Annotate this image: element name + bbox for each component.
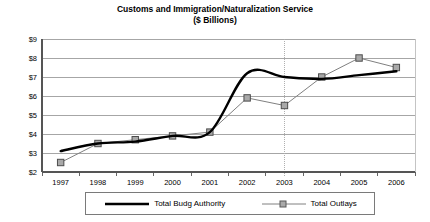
data-point-marker [244, 95, 250, 101]
x-axis-tick-labels: 1997199819992000200120022003200420052006 [52, 178, 404, 187]
x-tick-label: 2004 [313, 178, 330, 187]
x-tick-label: 2000 [164, 178, 181, 187]
y-tick-label: $8 [29, 54, 37, 63]
data-point-marker [57, 159, 63, 165]
data-series-layer [57, 55, 399, 166]
x-tick-label: 1999 [127, 178, 144, 187]
legend-line-swatch-budget-authority [103, 199, 151, 209]
y-tick-label: $3 [29, 149, 37, 158]
data-point-marker [393, 64, 399, 70]
chart-legend: Total Budg Authority Total Outlays [85, 192, 375, 215]
data-point-marker [281, 102, 287, 108]
y-axis-tick-labels: $2$3$4$5$6$7$8$9 [29, 35, 37, 177]
x-tick-label: 2002 [239, 178, 256, 187]
y-tick-label: $7 [29, 73, 37, 82]
x-tick-label: 2001 [202, 178, 219, 187]
y-tick-label: $9 [29, 35, 37, 44]
y-tick-label: $6 [29, 92, 37, 101]
y-tick-label: $5 [29, 111, 37, 120]
plot-area: $2$3$4$5$6$7$8$9 19971998199920002001200… [0, 0, 430, 222]
series-budget-authority [61, 70, 397, 151]
y-tick-label: $4 [29, 130, 37, 139]
legend-label-total-outlays: Total Outlays [311, 199, 357, 209]
legend-line-swatch-total-outlays [260, 199, 308, 209]
data-point-marker [356, 55, 362, 61]
series-total-outlays [57, 55, 399, 166]
legend-label-budget-authority: Total Budg Authority [154, 199, 225, 209]
x-tick-label: 2003 [276, 178, 293, 187]
legend-item-budget-authority: Total Budg Authority [103, 199, 225, 209]
x-tick-label: 2006 [388, 178, 405, 187]
legend-item-total-outlays: Total Outlays [260, 199, 357, 209]
chart-container: Customs and Immigration/Naturalization S… [0, 0, 430, 222]
x-tick-label: 2005 [351, 178, 368, 187]
x-tick-label: 1998 [90, 178, 107, 187]
y-tick-label: $2 [29, 168, 37, 177]
x-tick-label: 1997 [52, 178, 69, 187]
